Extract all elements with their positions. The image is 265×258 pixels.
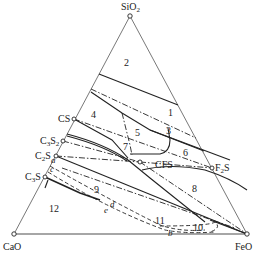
- label-cfs: CFS: [155, 159, 173, 170]
- label-sio2: SiO2: [121, 1, 141, 14]
- label-feo: FeO: [235, 241, 252, 252]
- phase-boundaries: [45, 74, 247, 234]
- region-9: 9: [94, 184, 99, 195]
- feo-point: [245, 232, 249, 236]
- region-2: 2: [124, 57, 129, 68]
- letter-e: e: [104, 205, 108, 215]
- cao-point: [12, 232, 16, 236]
- region-11: 11: [155, 215, 165, 226]
- cs-point: [72, 117, 76, 121]
- region-5: 5: [135, 127, 140, 138]
- label-cao: CaO: [3, 241, 21, 252]
- region-10: 10: [193, 222, 203, 233]
- c3s-point: [43, 175, 47, 179]
- cfs-point: [138, 160, 142, 164]
- region-1: 1: [168, 107, 173, 118]
- label-f2s: F2S: [215, 162, 230, 175]
- label-cs: CS: [58, 113, 70, 124]
- region-4: 4: [91, 109, 96, 120]
- triangle-frame: [14, 16, 247, 234]
- sio2-point: [128, 14, 132, 18]
- ternary-phase-diagram: SiO2 CaO FeO CS C3S2 C2S C3S CFS F2S 1 2…: [0, 0, 265, 258]
- label-c3s: C3S: [25, 171, 41, 184]
- label-c3s2: C3S2: [40, 135, 60, 148]
- letter-c: c: [50, 164, 54, 174]
- region-6: 6: [183, 147, 188, 158]
- letter-d: d: [110, 199, 115, 209]
- region-3: 3: [166, 125, 171, 136]
- compound-points: [12, 14, 249, 236]
- f2s-point: [210, 166, 214, 170]
- region-7: 7: [123, 141, 128, 152]
- region-12: 12: [49, 203, 59, 214]
- letter-b: b: [168, 228, 173, 238]
- label-c2s: C2S: [35, 150, 51, 163]
- region-8: 8: [192, 183, 197, 194]
- c3s2-point: [61, 139, 65, 143]
